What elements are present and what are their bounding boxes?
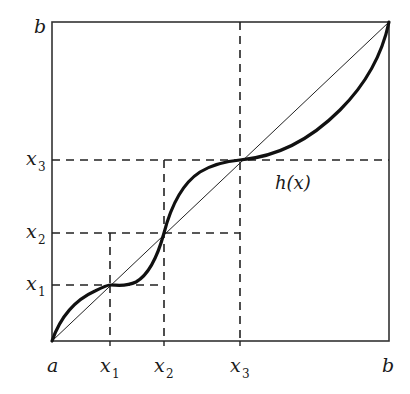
y-tick-label-x3: x 3 (26, 147, 46, 174)
y-tick-label-x2: x 2 (26, 220, 46, 247)
x-axis-end-label: b (382, 354, 394, 376)
svg-text:x: x (26, 220, 37, 242)
svg-text:x: x (26, 272, 37, 294)
svg-text:x: x (154, 354, 165, 376)
svg-text:x: x (230, 354, 241, 376)
svg-text:2: 2 (38, 233, 46, 247)
svg-text:3: 3 (242, 367, 250, 381)
x-tick-label-x3: x 3 (230, 354, 250, 381)
y-axis-end-label: b (34, 15, 46, 37)
svg-text:x: x (26, 147, 37, 169)
svg-text:3: 3 (38, 160, 46, 174)
fixed-point-diagram: a b x 1 x 2 x 3 b x 3 x 2 x 1 h(x) (0, 0, 410, 394)
svg-text:2: 2 (166, 367, 174, 381)
x-tick-label-x1: x 1 (100, 354, 120, 381)
y-tick-label-x1: x 1 (26, 272, 46, 299)
x-tick-label-x2: x 2 (154, 354, 174, 381)
curve-label-h: h(x) (275, 172, 311, 193)
svg-text:x: x (100, 354, 111, 376)
x-axis-start-label: a (47, 354, 58, 376)
svg-text:1: 1 (38, 285, 46, 299)
identity-diagonal (52, 22, 389, 341)
svg-text:1: 1 (112, 367, 120, 381)
